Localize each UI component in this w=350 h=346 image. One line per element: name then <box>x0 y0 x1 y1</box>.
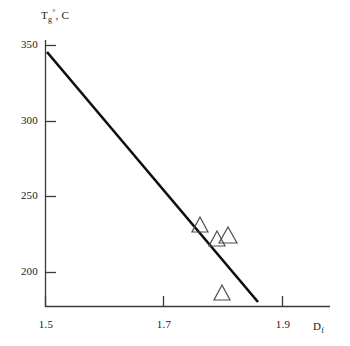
y-axis-title: Tg°, C <box>41 8 69 24</box>
data-point-triangle <box>192 217 208 232</box>
y-tick-label-300: 300 <box>8 114 38 126</box>
x-axis-title-subscript: f <box>321 326 324 335</box>
x-axis-title: Df <box>313 320 324 335</box>
chart-figure: Tg°, C Df 350 300 250 200 1.5 1.7 1.9 <box>0 0 350 346</box>
chart-plot-area <box>0 0 350 346</box>
data-point-triangle <box>209 231 225 246</box>
y-axis-title-base: T <box>41 9 48 21</box>
x-axis-title-base: D <box>313 320 321 332</box>
y-axis-title-tail: , C <box>56 9 69 21</box>
data-point-triangle <box>214 285 230 300</box>
x-tick-label-1.5: 1.5 <box>31 318 61 330</box>
trend-line <box>47 52 258 302</box>
y-tick-label-200: 200 <box>8 265 38 277</box>
x-tick-label-1.9: 1.9 <box>268 318 298 330</box>
x-tick-label-1.7: 1.7 <box>149 318 179 330</box>
x-axis-ticks <box>46 296 283 307</box>
y-tick-label-350: 350 <box>8 38 38 50</box>
y-tick-label-250: 250 <box>8 189 38 201</box>
y-axis-ticks <box>45 46 56 273</box>
data-markers <box>192 217 237 300</box>
